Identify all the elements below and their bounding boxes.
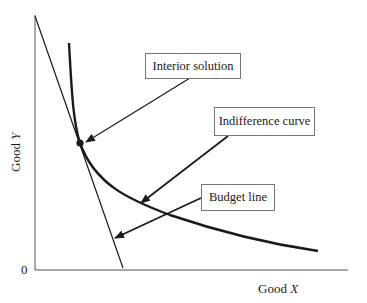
indifference-curve-label: Indifference curve <box>214 107 315 136</box>
budget-line-label: Budget line <box>201 184 275 211</box>
diagram-canvas <box>0 0 367 303</box>
origin-label: 0 <box>21 262 28 278</box>
y-axis-label: Good Y <box>8 133 24 172</box>
arrow-budget-line <box>115 198 201 238</box>
x-axis-label-prefix: Good <box>258 281 290 296</box>
arrow-interior-solution <box>86 78 190 142</box>
interior-solution-label: Interior solution <box>145 53 241 79</box>
x-axis-label: Good X <box>258 281 298 297</box>
tangency-point <box>76 139 83 146</box>
y-axis-label-prefix: Good <box>8 140 23 172</box>
x-axis-label-var: X <box>290 281 298 296</box>
y-axis-label-var: Y <box>8 133 23 140</box>
